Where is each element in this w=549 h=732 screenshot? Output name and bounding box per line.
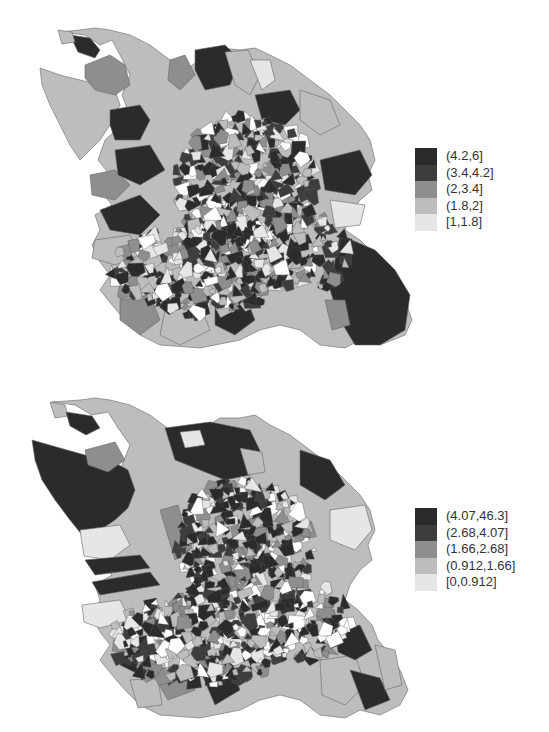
legend-swatch [415,198,437,215]
legend-entry: [1,1.8] [415,214,494,231]
legend-swatch [415,558,437,575]
legend-label: (4.2,6] [446,148,483,164]
legend-top: (4.2,6] (3.4,4.2] (2,3.4] (1.8,2] [1,1.8… [415,148,494,231]
legend-label: [0,0.912] [446,574,497,590]
legend-label: (4.07,46.3] [446,508,508,524]
legend-entry: (1.66,2.68] [415,541,515,558]
legend-swatch [415,214,437,231]
legend-entry: (4.2,6] [415,148,494,165]
legend-entry: (4.07,46.3] [415,508,515,525]
legend-label: [1,1.8] [446,214,482,230]
legend-swatch [415,541,437,558]
legend-label: (3.4,4.2] [446,165,494,181]
legend-entry: (3.4,4.2] [415,165,494,182]
legend-swatch [415,525,437,542]
legend-entry: (1.8,2] [415,198,494,215]
legend-label: (1.8,2] [446,198,483,214]
legend-entry: (0.912,1.66] [415,558,515,575]
legend-swatch [415,508,437,525]
legend-swatch [415,574,437,591]
legend-entry: (2.68,4.07] [415,525,515,542]
legend-swatch [415,165,437,182]
legend-swatch [415,181,437,198]
legend-swatch [415,148,437,165]
choropleth-map-bottom: (4.07,46.3] (2.68,4.07] (1.66,2.68] (0.9… [0,360,549,732]
legend-bottom: (4.07,46.3] (2.68,4.07] (1.66,2.68] (0.9… [415,508,515,591]
legend-label: (0.912,1.66] [446,558,515,574]
legend-label: (2.68,4.07] [446,525,508,541]
legend-entry: (2,3.4] [415,181,494,198]
legend-entry: [0,0.912] [415,574,515,591]
legend-label: (1.66,2.68] [446,541,508,557]
choropleth-map-top: (4.2,6] (3.4,4.2] (2,3.4] (1.8,2] [1,1.8… [0,0,549,360]
legend-label: (2,3.4] [446,181,483,197]
